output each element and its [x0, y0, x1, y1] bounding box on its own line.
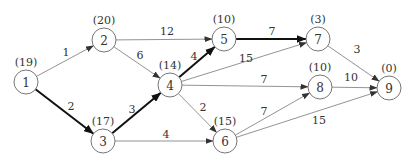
edge-4-8 [182, 85, 308, 87]
node-label: 2 [100, 34, 108, 48]
edge-3-4 [112, 93, 161, 134]
node-label: 9 [385, 82, 393, 96]
edge-weight-label: 10 [344, 71, 358, 84]
node-8: 8(10) [308, 61, 332, 99]
edge-weight-label: 4 [191, 50, 198, 63]
node-3: 3(17) [91, 115, 115, 153]
edge-weight-label: 3 [129, 103, 136, 116]
node-value-label: (3) [310, 13, 326, 26]
edge-weight-label: 15 [312, 114, 326, 127]
node-label: 1 [22, 76, 30, 90]
edge-weight-label: 7 [261, 105, 268, 118]
edge-weight-label: 15 [239, 52, 253, 65]
edge-weight-label: 7 [261, 73, 268, 86]
node-value-label: (17) [92, 115, 115, 128]
node-label: 4 [166, 79, 174, 93]
node-value-label: (20) [93, 14, 116, 27]
edge-weight-label: 3 [354, 43, 361, 56]
node-5: 5(10) [212, 13, 236, 51]
node-value-label: (19) [15, 56, 38, 69]
node-2: 2(20) [92, 14, 116, 52]
node-1: 1(19) [14, 56, 38, 94]
node-9: 9(0) [377, 62, 401, 100]
edge-weight-label: 1 [63, 46, 70, 59]
edge-weight-label: 2 [200, 101, 207, 114]
network-diagram: 1212634415727310715 1(19)2(20)3(17)4(14)… [0, 0, 414, 162]
node-value-label: (14) [159, 59, 182, 72]
node-label: 8 [316, 81, 324, 95]
node-label: 5 [220, 33, 228, 47]
node-label: 3 [99, 135, 107, 149]
node-4: 4(14) [158, 59, 182, 97]
node-label: 6 [221, 135, 229, 149]
edge-weight-label: 6 [137, 49, 144, 62]
edge-weight-label: 4 [163, 128, 170, 141]
edge-2-5 [116, 39, 212, 40]
network-graph: 1212634415727310715 1(19)2(20)3(17)4(14)… [0, 0, 414, 162]
node-label: 7 [314, 33, 322, 47]
edge-1-3 [36, 89, 94, 133]
node-value-label: (0) [381, 62, 397, 75]
node-value-label: (10) [213, 13, 236, 26]
nodes-layer: 1(19)2(20)3(17)4(14)5(10)6(15)7(3)8(10)9… [14, 13, 401, 153]
node-value-label: (10) [309, 61, 332, 74]
edge-6-9 [236, 92, 377, 138]
edge-4-6 [178, 94, 216, 133]
edge-weight-label: 2 [68, 100, 75, 113]
edge-weight-label: 12 [160, 25, 174, 38]
edge-weight-label: 7 [269, 25, 276, 38]
edge-6-8 [235, 93, 309, 135]
node-6: 6(15) [213, 115, 237, 153]
node-7: 7(3) [306, 13, 330, 51]
edge-8-9 [332, 87, 377, 88]
node-value-label: (15) [214, 115, 237, 128]
